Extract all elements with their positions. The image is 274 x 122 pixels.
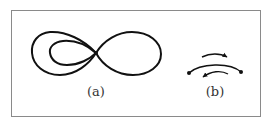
central-node bbox=[94, 51, 98, 55]
arrow-left-icon bbox=[203, 72, 228, 77]
left-endpoint-dot bbox=[187, 71, 191, 75]
arrow-right-icon bbox=[202, 54, 227, 57]
left-outer-loop bbox=[32, 32, 96, 75]
right-endpoint-dot bbox=[239, 70, 243, 74]
panel-b-graph bbox=[187, 54, 243, 77]
right-outer-loop bbox=[96, 32, 161, 75]
panel-a-graph bbox=[32, 32, 161, 75]
diagram-canvas bbox=[0, 0, 274, 122]
caption-b: (b) bbox=[206, 85, 224, 98]
caption-a: (a) bbox=[87, 85, 105, 98]
